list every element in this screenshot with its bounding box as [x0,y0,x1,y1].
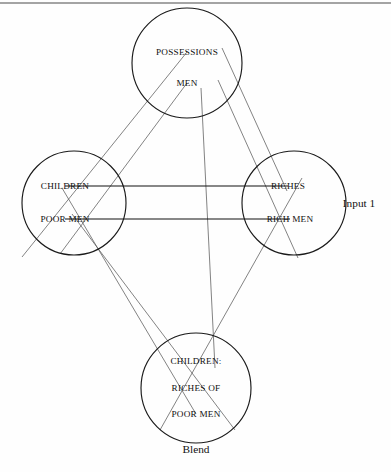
diagram-canvas [0,0,391,472]
input-space-right-circle [242,151,346,255]
input-space-left-circle [22,151,126,255]
element-rich-men: RICH MEN [267,214,314,224]
element-poor-men: POOR MEN [40,214,89,224]
conceptual-blending-diagram: POSSESSIONS MEN CHILDREN POOR MEN RICHES… [0,0,391,472]
projection-poor-men-to-blend [72,214,235,430]
element-possessions: POSSESSIONS [156,47,218,57]
input-1-label: Input 1 [343,197,375,209]
element-children: CHILDREN [41,181,89,191]
generic-space-circle [132,8,242,118]
element-blend-children: CHILDREN: [170,356,221,366]
projection-possessions-to-children [22,52,187,257]
element-men: MEN [176,78,197,88]
element-blend-riches-of: RICHES OF [172,383,221,393]
element-riches: RICHES [271,181,305,191]
element-blend-poor-men: POOR MEN [171,409,220,419]
projection-men-to-poor-men [60,83,187,254]
blend-label: Blend [183,443,210,455]
projection-men-to-rich-men [218,80,298,258]
projection-men-to-blend-center [201,88,215,368]
